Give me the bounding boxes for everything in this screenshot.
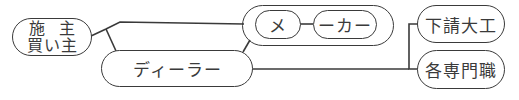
maker-label-part1: メ [269, 12, 287, 37]
subcontractor-label: 下請大工 [425, 12, 497, 37]
dealer-maker-line [243, 40, 250, 52]
owner-maker-line [91, 22, 244, 36]
owner-label-line2: 買い主 [27, 37, 78, 54]
owner-label-line1: 施主 [29, 20, 89, 37]
maker-node-part2: ーカー [313, 10, 377, 39]
maker-node-part1: メ [255, 10, 301, 39]
dealer-node: ディーラー [101, 50, 253, 87]
bracket-line [409, 24, 418, 69]
maker-label-part2: ーカー [318, 12, 372, 37]
owner-dealer-line [106, 29, 116, 51]
specialists-node: 各専門職 [417, 50, 505, 89]
specialists-label: 各専門職 [425, 57, 497, 82]
owner-node: 施主 買い主 [12, 18, 92, 56]
subcontractor-node: 下請大工 [417, 5, 505, 43]
dealer-label: ディーラー [133, 56, 222, 81]
